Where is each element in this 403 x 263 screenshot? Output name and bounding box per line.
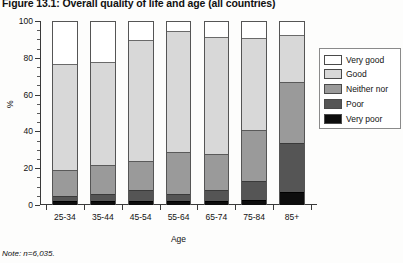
x-tick-label: 35-44	[92, 212, 114, 222]
bar-segment	[53, 22, 77, 64]
x-tick-label: 25-34	[54, 212, 76, 222]
y-tick-minor	[37, 67, 40, 68]
legend-label: Very poor	[346, 114, 382, 124]
figure-note: Note: n=6,035.	[2, 249, 55, 258]
y-tick-minor	[37, 85, 40, 86]
figure-title: Figure 13.1: Overall quality of life and…	[2, 0, 401, 9]
bar-segment	[91, 201, 115, 205]
legend-item[interactable]: Poor	[324, 97, 397, 110]
bar-segment	[205, 154, 229, 191]
bar-segment	[167, 22, 191, 31]
figure-container: Figure 13.1: Overall quality of life and…	[0, 0, 403, 263]
bar-segment	[129, 40, 153, 161]
bar-segment	[167, 194, 191, 201]
y-tick-minor	[37, 30, 40, 31]
legend-swatch-icon	[324, 55, 342, 65]
x-axis-label: Age	[40, 234, 317, 244]
bar-slot	[235, 21, 273, 205]
x-tick	[160, 205, 161, 210]
y-tick-minor	[37, 49, 40, 50]
x-tick	[84, 205, 85, 210]
bar-segment	[280, 143, 304, 192]
bar-segment	[242, 130, 266, 181]
x-tick-label: 65-74	[205, 212, 227, 222]
y-tick-minor	[37, 122, 40, 123]
stacked-bar[interactable]	[241, 21, 267, 205]
bar-segment	[91, 62, 115, 164]
y-tick-major	[35, 95, 40, 96]
y-tick-label: 100	[19, 16, 33, 26]
y-tick-major	[35, 58, 40, 59]
legend-swatch-icon	[324, 84, 342, 94]
bar-segment	[242, 200, 266, 205]
bar-segment	[53, 64, 77, 170]
bar-segment	[129, 190, 153, 201]
y-tick-label: 40	[24, 126, 33, 136]
legend-label: Neither nor	[346, 84, 388, 94]
y-tick-minor	[37, 104, 40, 105]
bar-segment	[167, 31, 191, 152]
stacked-bar[interactable]	[204, 21, 230, 205]
stacked-bar[interactable]	[52, 21, 78, 205]
bar-segment	[242, 38, 266, 130]
legend-label: Poor	[346, 99, 364, 109]
bar-segment	[242, 22, 266, 38]
bar-segment	[53, 201, 77, 205]
bar-slot	[84, 21, 122, 205]
y-tick-major	[35, 205, 40, 206]
y-tick-minor	[37, 76, 40, 77]
bar-slot	[122, 21, 160, 205]
y-tick-minor	[37, 196, 40, 197]
bar-segment	[53, 170, 77, 196]
x-tick	[273, 205, 274, 210]
legend-item[interactable]: Very good	[324, 53, 397, 66]
y-tick-label: 0	[28, 200, 33, 210]
bar-segment	[91, 165, 115, 194]
x-tick	[311, 205, 312, 210]
x-tick	[46, 205, 47, 210]
bar-segment	[129, 22, 153, 40]
x-tick	[197, 205, 198, 210]
y-tick-minor	[37, 113, 40, 114]
y-tick-major	[35, 131, 40, 132]
x-tick	[122, 205, 123, 210]
bar-segment	[205, 37, 229, 154]
y-tick-minor	[37, 159, 40, 160]
y-tick-label: 60	[24, 90, 33, 100]
x-tick-label: 85+	[285, 212, 299, 222]
legend-item[interactable]: Neither nor	[324, 83, 397, 96]
bar-segment	[205, 190, 229, 201]
legend: Very goodGoodNeither norPoorVery poor	[319, 48, 401, 129]
legend-label: Good	[346, 69, 367, 79]
bar-slot	[273, 21, 311, 205]
legend-swatch-icon	[324, 114, 342, 124]
y-tick-minor	[37, 150, 40, 151]
bar-slot	[46, 21, 84, 205]
legend-item[interactable]: Very poor	[324, 112, 397, 125]
bar-segment	[205, 201, 229, 205]
y-tick-minor	[37, 187, 40, 188]
bar-segment	[129, 161, 153, 190]
stacked-bar[interactable]	[128, 21, 154, 205]
stacked-bar[interactable]	[279, 21, 305, 205]
y-axis-label: %	[5, 100, 15, 108]
bar-slot	[160, 21, 198, 205]
stacked-bar[interactable]	[90, 21, 116, 205]
y-tick-minor	[37, 177, 40, 178]
legend-item[interactable]: Good	[324, 68, 397, 81]
bar-segment	[129, 201, 153, 205]
bar-segment	[167, 201, 191, 205]
x-tick-label: 45-54	[130, 212, 152, 222]
y-tick-minor	[37, 141, 40, 142]
bar-segment	[91, 194, 115, 201]
y-tick-label: 80	[24, 53, 33, 63]
x-tick-label: 55-64	[168, 212, 190, 222]
bar-segment	[280, 192, 304, 205]
bar-segment	[242, 181, 266, 199]
bar-segment	[280, 22, 304, 35]
plot-area: 020406080100 25-3435-4445-5455-6465-7475…	[40, 21, 317, 205]
legend-swatch-icon	[324, 99, 342, 109]
stacked-bar[interactable]	[166, 21, 192, 205]
legend-swatch-icon	[324, 69, 342, 79]
y-tick-label: 20	[24, 163, 33, 173]
